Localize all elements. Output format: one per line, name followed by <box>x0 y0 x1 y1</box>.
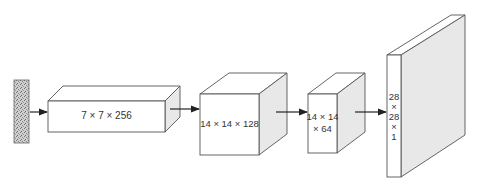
layer-1-label: 7 × 7 × 256 <box>48 110 165 122</box>
layer-2-box <box>200 73 287 155</box>
layer-3-label-line2: × 64 <box>305 123 340 135</box>
layer-1-box <box>48 86 180 132</box>
layer-3-label: 14 × 14 × 64 <box>305 111 340 135</box>
layer-3-label-line1: 14 × 14 <box>305 111 340 123</box>
noise-input <box>14 80 29 143</box>
layer-4-label-line5: 1 <box>386 132 402 142</box>
diagram-canvas <box>0 0 482 185</box>
layer-2-label: 14 × 14 × 128 <box>196 118 263 130</box>
layer-4-label: 28 × 28 × 1 <box>386 92 402 142</box>
